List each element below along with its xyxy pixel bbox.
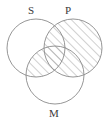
venn-diagram-figure: S P M <box>0 0 110 121</box>
label-m: M <box>49 107 59 119</box>
label-p: P <box>65 4 71 16</box>
venn-diagram-canvas: S P M <box>0 0 110 121</box>
label-s: S <box>28 4 34 16</box>
